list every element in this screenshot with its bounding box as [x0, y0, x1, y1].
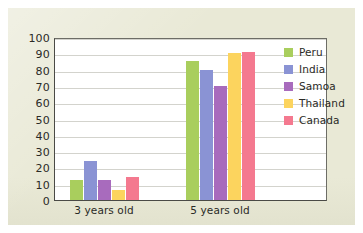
legend-swatch-icon	[284, 99, 293, 108]
legend-item[interactable]: India	[284, 61, 363, 77]
legend-swatch-icon	[284, 65, 293, 74]
y-axis-tick-label: 90	[10, 49, 50, 60]
legend-item-label: Peru	[299, 46, 323, 58]
bar[interactable]	[186, 61, 199, 200]
legend-item-label: Samoa	[299, 80, 336, 92]
legend-swatch-icon	[284, 48, 293, 57]
legend-item[interactable]: Peru	[284, 44, 363, 60]
bar-chart-figure: 1009080706050403020100 3 years old5 year…	[8, 8, 355, 225]
bar[interactable]	[126, 177, 139, 200]
x-axis: 3 years old5 years old	[54, 204, 327, 222]
bar[interactable]	[214, 86, 227, 200]
y-axis-tick-label: 20	[10, 163, 50, 174]
legend-item[interactable]: Samoa	[284, 78, 363, 94]
y-axis-tick-label: 60	[10, 98, 50, 109]
y-axis-tick-label: 80	[10, 66, 50, 77]
bar[interactable]	[70, 180, 83, 200]
y-axis-tick-label: 70	[10, 82, 50, 93]
bar[interactable]	[84, 161, 97, 200]
bar[interactable]	[112, 190, 125, 200]
y-axis-tick-label: 30	[10, 147, 50, 158]
legend: PeruIndiaSamoaThailandCanada	[284, 44, 363, 129]
bar-group	[70, 39, 139, 200]
legend-swatch-icon	[284, 82, 293, 91]
x-axis-tick-label: 3 years old	[47, 204, 161, 216]
y-axis-tick-label: 100	[10, 33, 50, 44]
y-axis-tick-label: 40	[10, 131, 50, 142]
legend-item-label: Canada	[299, 114, 340, 126]
bar[interactable]	[242, 52, 255, 200]
y-axis-tick-label: 50	[10, 115, 50, 126]
y-axis: 1009080706050403020100	[8, 38, 50, 201]
legend-swatch-icon	[284, 116, 293, 125]
legend-item-label: Thailand	[299, 97, 345, 109]
bar[interactable]	[200, 70, 213, 200]
bar[interactable]	[98, 180, 111, 200]
y-axis-tick-label: 0	[10, 196, 50, 207]
legend-item[interactable]: Canada	[284, 112, 363, 128]
legend-item[interactable]: Thailand	[284, 95, 363, 111]
chart-screenshot: 1009080706050403020100 3 years old5 year…	[0, 0, 363, 233]
legend-item-label: India	[299, 63, 325, 75]
y-axis-tick-label: 10	[10, 180, 50, 191]
bar[interactable]	[228, 53, 241, 200]
x-axis-tick-label: 5 years old	[163, 204, 277, 216]
bar-group	[186, 39, 255, 200]
